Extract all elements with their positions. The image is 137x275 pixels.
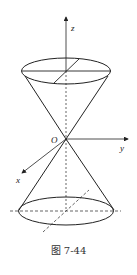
- x-axis: [22, 139, 66, 173]
- y-axis-label: y: [119, 143, 124, 153]
- double-cone-diagram: z y x O: [0, 0, 137, 275]
- z-axis-label: z: [70, 23, 75, 33]
- origin-label: O: [51, 135, 58, 145]
- figure-caption: 图 7-44: [0, 242, 137, 257]
- lower-cone-left-generator: [19, 139, 66, 210]
- upper-cone-left-generator: [25, 76, 66, 139]
- x-axis-label: x: [15, 175, 20, 185]
- upper-cone-right-generator: [66, 76, 108, 139]
